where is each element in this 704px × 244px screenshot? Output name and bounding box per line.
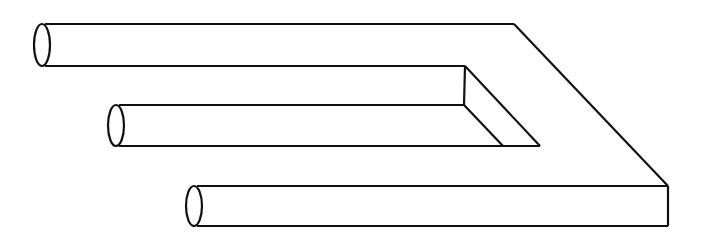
- inner-notch: [464, 66, 540, 146]
- impossible-trident-figure: [0, 0, 704, 244]
- bottom-prong: [186, 186, 668, 226]
- top-prong: [34, 24, 514, 66]
- outer-diagonal: [514, 24, 668, 186]
- middle-prong: [108, 105, 540, 146]
